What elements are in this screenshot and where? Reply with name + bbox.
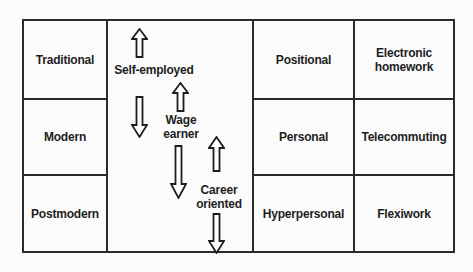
- divider-stages: [106, 19, 108, 253]
- workform-flexiwork: Flexiwork: [355, 176, 453, 251]
- arrow-down-icon: [131, 96, 148, 138]
- employment-wage-earner: Wage earner: [160, 113, 202, 141]
- arrow-up-icon: [172, 82, 189, 112]
- employment-career-oriented: Career oriented: [192, 183, 246, 211]
- employment-self-employed: Self-employed: [109, 63, 199, 77]
- workform-telecommuting: Telecommuting: [355, 100, 453, 174]
- arrow-up-icon: [131, 28, 148, 58]
- stage-modern: Modern: [24, 100, 106, 174]
- workform-electronic-homework: Electronic homework: [355, 21, 453, 98]
- relationship-personal: Personal: [254, 100, 353, 174]
- stage-traditional: Traditional: [24, 21, 106, 98]
- relationship-positional: Positional: [254, 21, 353, 98]
- relationship-hyperpersonal: Hyperpersonal: [254, 176, 353, 251]
- arrow-down-icon: [208, 213, 225, 254]
- stage-postmodern: Postmodern: [24, 176, 106, 251]
- arrow-down-icon: [170, 145, 187, 199]
- arrow-up-icon: [208, 136, 225, 172]
